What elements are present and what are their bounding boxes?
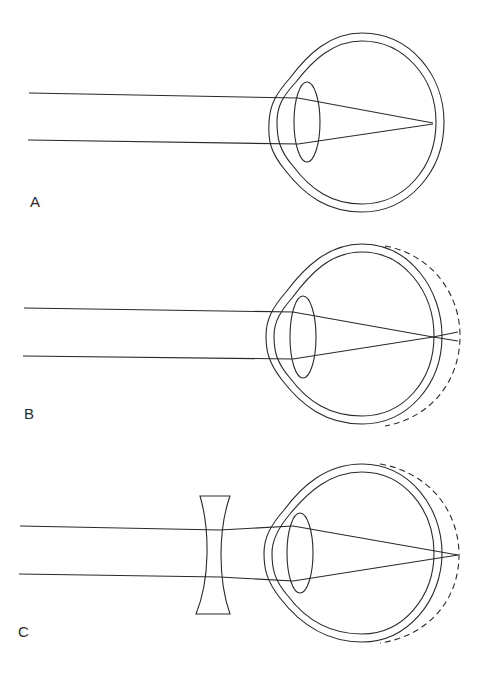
ray-upper-c: [20, 526, 220, 530]
elongated-globe-outline-b: [385, 246, 460, 426]
eye-optics-diagram: A B C: [0, 0, 482, 674]
panel-label-b: B: [24, 405, 34, 422]
ray-upper-a: [29, 93, 298, 98]
eye-outer-wall-a: [269, 33, 444, 212]
concave-corrective-lens: [196, 496, 230, 614]
panel-b: B: [23, 244, 460, 426]
eye-lens-b: [290, 296, 316, 378]
diverging-ray-lower-b: [433, 337, 458, 341]
diverged-ray-upper-c: [220, 526, 293, 530]
refracted-ray-lower-b: [293, 337, 433, 359]
panel-label-c: C: [18, 623, 29, 640]
diverging-ray-upper-b: [433, 332, 458, 337]
panel-label-a: A: [30, 193, 40, 210]
diverged-ray-lower-c: [220, 577, 293, 581]
ray-lower-a: [28, 140, 298, 144]
ray-upper-b: [24, 308, 293, 312]
ray-lower-c: [19, 574, 220, 577]
eye-lens-c: [287, 513, 313, 593]
panel-a: A: [28, 33, 444, 212]
eye-outer-wall-c: [264, 464, 442, 642]
eye-inner-wall-c: [272, 472, 434, 634]
ray-lower-b: [23, 356, 293, 359]
eye-lens-a: [294, 82, 320, 162]
panel-c: C: [18, 464, 459, 643]
